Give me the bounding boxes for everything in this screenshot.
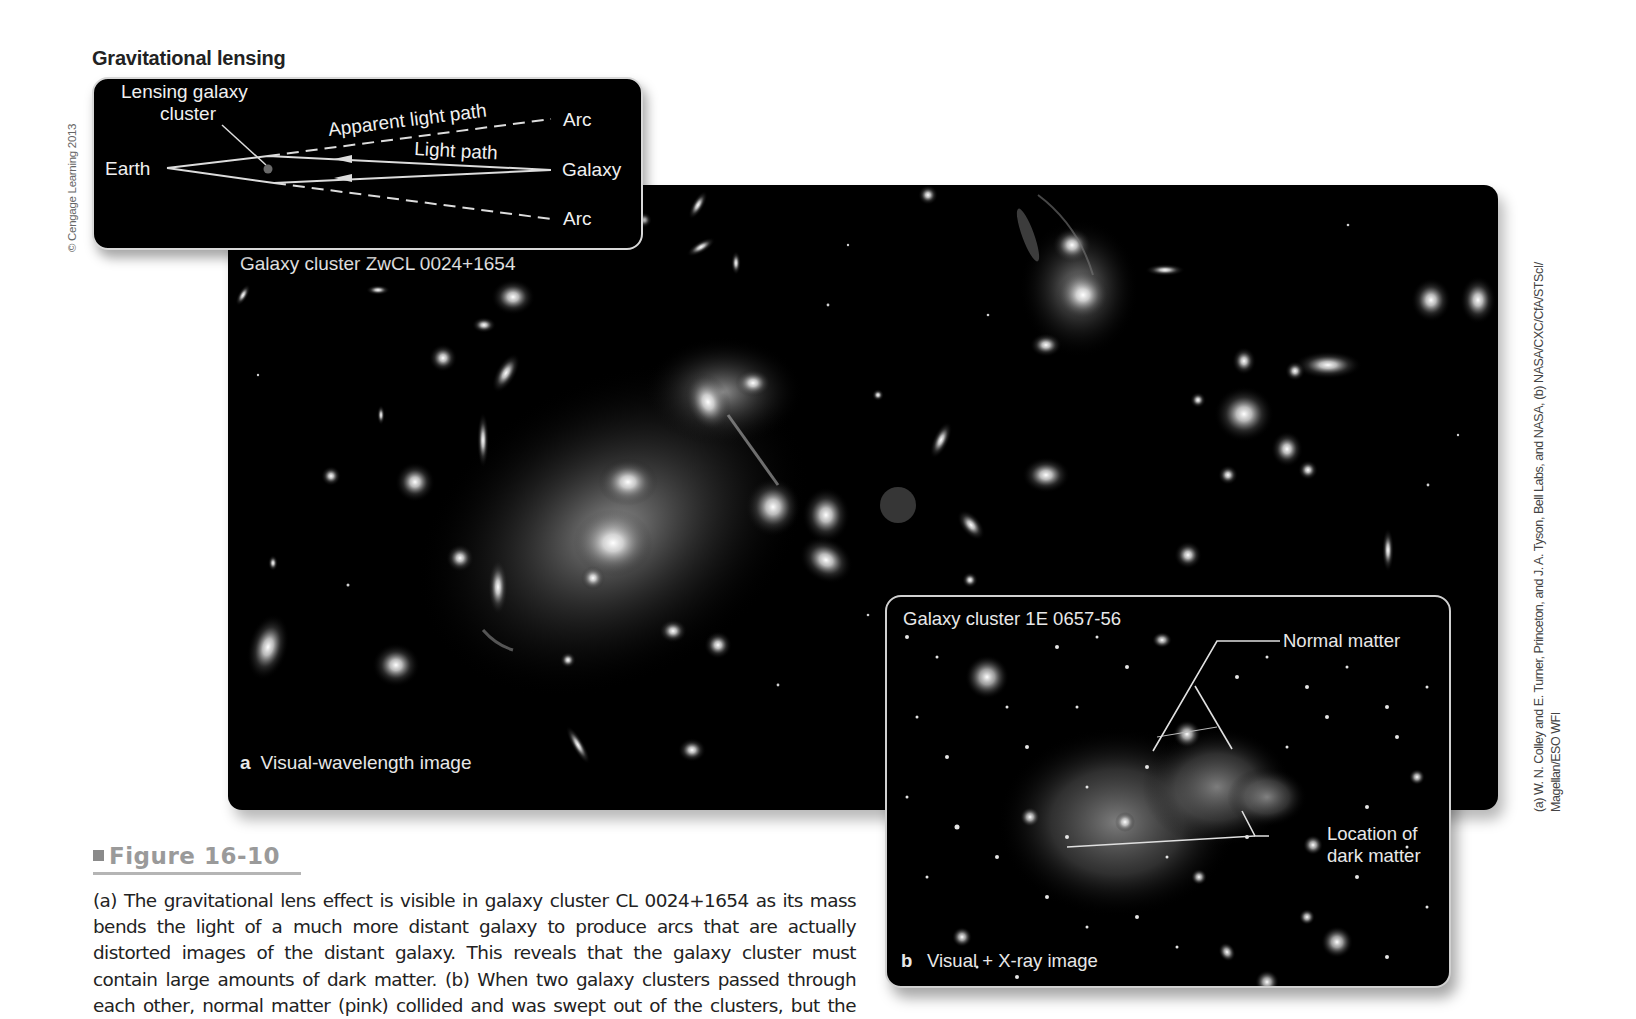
label-arc-top: Arc bbox=[563, 109, 592, 130]
label-light-path: Light path bbox=[414, 138, 498, 163]
apparent-path-bottom bbox=[274, 183, 551, 219]
label-earth: Earth bbox=[105, 158, 150, 179]
label-dark-matter-2: dark matter bbox=[1327, 845, 1421, 866]
caption-line: each other, normal matter (pink) collide… bbox=[93, 993, 856, 1019]
label-galaxy: Galaxy bbox=[562, 159, 622, 180]
panel-b-xray-image: Galaxy cluster 1E 0657-56 Normal matter … bbox=[885, 595, 1451, 988]
arrow-icon bbox=[334, 155, 352, 163]
copyright-notice: © Cengage Learning 2013 bbox=[66, 92, 78, 252]
panel-a-caption: aVisual-wavelength image bbox=[240, 752, 471, 774]
lensing-cluster-dot bbox=[264, 165, 273, 174]
credit-line-2: Magellan/ESO WFI bbox=[1548, 212, 1565, 812]
figure-caption: (a) The gravitational lens effect is vis… bbox=[93, 888, 856, 1019]
light-path-bottom-line bbox=[167, 168, 551, 183]
lensing-diagram-svg: Lensing galaxy cluster Earth Apparent li… bbox=[94, 79, 643, 250]
panel-a-title: Galaxy cluster ZwCL 0024+1654 bbox=[240, 253, 515, 275]
label-lensing-cluster-1: Lensing galaxy bbox=[121, 81, 248, 102]
caption-line: contain large amounts of dark matter. (b… bbox=[93, 967, 856, 993]
panel-a-letter: a bbox=[240, 752, 251, 773]
figure-label: Figure 16-10 bbox=[93, 843, 280, 869]
panel-b-title: Galaxy cluster 1E 0657-56 bbox=[903, 608, 1121, 629]
panel-b-letter: b bbox=[901, 950, 912, 971]
label-arc-bottom: Arc bbox=[563, 208, 592, 229]
caption-line: bends the light of a much more distant g… bbox=[93, 914, 856, 940]
credit-line-1: (a) W. N. Colley and E. Turner, Princeto… bbox=[1531, 212, 1548, 812]
panel-b-caption: Visual + X-ray image bbox=[927, 950, 1098, 971]
caption-line: distorted images of the distant galaxy. … bbox=[93, 940, 856, 966]
galaxy-field-b: Galaxy cluster 1E 0657-56 Normal matter … bbox=[887, 597, 1451, 988]
label-normal-matter: Normal matter bbox=[1283, 630, 1400, 651]
figure-label-text: Figure 16-10 bbox=[109, 843, 280, 869]
label-apparent-light-path: Apparent light path bbox=[327, 100, 488, 140]
caption-line: (a) The gravitational lens effect is vis… bbox=[93, 888, 856, 914]
label-dark-matter-1: Location of bbox=[1327, 823, 1418, 844]
label-lensing-cluster-2: cluster bbox=[160, 103, 217, 124]
lensing-diagram: Lensing galaxy cluster Earth Apparent li… bbox=[92, 77, 643, 250]
figure-label-underline bbox=[93, 872, 301, 875]
diagram-title: Gravitational lensing bbox=[92, 47, 286, 70]
panel-a-caption-text: Visual-wavelength image bbox=[261, 752, 472, 773]
square-bullet-icon bbox=[93, 850, 104, 861]
image-credit: (a) W. N. Colley and E. Turner, Princeto… bbox=[1531, 212, 1565, 812]
